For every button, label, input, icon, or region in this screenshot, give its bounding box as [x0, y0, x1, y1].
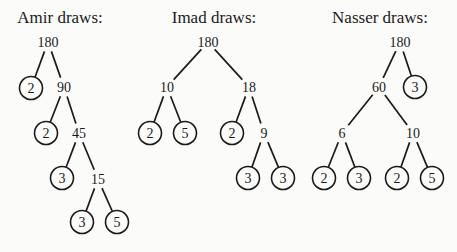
tree-edge — [171, 96, 181, 122]
node-label: 180 — [38, 35, 59, 50]
composite-node: 45 — [72, 126, 86, 141]
node-label: 5 — [114, 215, 121, 230]
tree-edge — [215, 49, 243, 79]
composite-node: 18 — [242, 80, 256, 95]
factor-tree: Amir draws:18029024531535 — [17, 8, 128, 234]
tree-edge — [383, 51, 396, 78]
node-label: 90 — [57, 80, 71, 95]
node-label: 6 — [339, 126, 346, 141]
node-label: 45 — [72, 126, 86, 141]
node-label: 180 — [390, 35, 411, 50]
prime-factor-node: 2 — [35, 122, 58, 145]
node-label: 60 — [372, 80, 386, 95]
prime-factor-node: 2 — [221, 122, 244, 145]
node-label: 2 — [28, 81, 35, 96]
prime-factor-node: 2 — [20, 77, 43, 100]
prime-factor-node: 5 — [174, 122, 197, 145]
tree-edge — [268, 142, 279, 167]
prime-factor-node: 2 — [386, 167, 409, 190]
node-label: 180 — [198, 35, 219, 50]
tree-edge — [385, 95, 407, 125]
node-label: 2 — [229, 126, 236, 141]
prime-factor-node: 2 — [313, 167, 336, 190]
tree-edge — [346, 142, 355, 167]
node-label: 3 — [79, 215, 86, 230]
tree-title: Amir draws: — [17, 8, 102, 27]
factor-trees-diagram: Amir draws:18029024531535Imad draws:1801… — [0, 0, 457, 252]
node-label: 2 — [147, 126, 154, 141]
tree-edge — [51, 51, 60, 77]
prime-factor-node: 3 — [404, 76, 427, 99]
prime-factor-node: 5 — [106, 211, 129, 234]
tree-title: Imad draws: — [172, 8, 257, 27]
tree-edge — [35, 51, 45, 77]
tree-edge — [348, 95, 372, 125]
prime-factor-node: 3 — [51, 167, 74, 190]
tree-edge — [417, 142, 428, 167]
composite-node: 6 — [339, 126, 346, 141]
node-label: 2 — [43, 126, 50, 141]
node-label: 15 — [91, 172, 105, 187]
tree-edge — [83, 142, 94, 170]
node-label: 3 — [245, 171, 252, 186]
tree-edge — [403, 52, 411, 77]
node-label: 18 — [242, 80, 256, 95]
node-label: 2 — [321, 171, 328, 186]
tree-edge — [174, 49, 202, 79]
tree-edge — [50, 96, 60, 122]
composite-node: 180 — [390, 35, 411, 50]
tree-edge — [328, 142, 338, 167]
prime-factor-node: 3 — [237, 167, 260, 190]
tree-edge — [102, 188, 112, 211]
tree-edge — [154, 96, 164, 122]
node-label: 3 — [280, 171, 287, 186]
prime-factor-node: 3 — [348, 167, 371, 190]
composite-node: 9 — [261, 126, 268, 141]
tree-edge — [67, 97, 76, 124]
factor-tree: Nasser draws:1806036102325 — [313, 8, 444, 190]
composite-node: 180 — [198, 35, 219, 50]
node-label: 5 — [182, 126, 189, 141]
factor-tree: Imad draws:1801018252933 — [139, 8, 295, 190]
prime-factor-node: 2 — [139, 122, 162, 145]
composite-node: 180 — [38, 35, 59, 50]
node-label: 2 — [394, 171, 401, 186]
tree-edge — [66, 142, 75, 167]
prime-factor-node: 3 — [71, 211, 94, 234]
tree-edge — [86, 188, 95, 211]
node-label: 3 — [412, 80, 419, 95]
node-label: 5 — [429, 171, 436, 186]
node-label: 9 — [261, 126, 268, 141]
tree-title: Nasser draws: — [332, 8, 428, 27]
composite-node: 60 — [372, 80, 386, 95]
node-label: 10 — [160, 80, 174, 95]
prime-factor-node: 3 — [272, 167, 295, 190]
node-label: 3 — [59, 171, 66, 186]
factor-trees-canvas: Amir draws:18029024531535Imad draws:1801… — [0, 0, 457, 252]
composite-node: 15 — [91, 172, 105, 187]
composite-node: 90 — [57, 80, 71, 95]
composite-node: 10 — [160, 80, 174, 95]
tree-edge — [401, 142, 410, 167]
tree-edge — [252, 142, 261, 167]
tree-edge — [236, 96, 246, 122]
node-label: 3 — [356, 171, 363, 186]
prime-factor-node: 5 — [421, 167, 444, 190]
tree-edge — [252, 97, 261, 124]
node-label: 10 — [406, 126, 420, 141]
composite-node: 10 — [406, 126, 420, 141]
